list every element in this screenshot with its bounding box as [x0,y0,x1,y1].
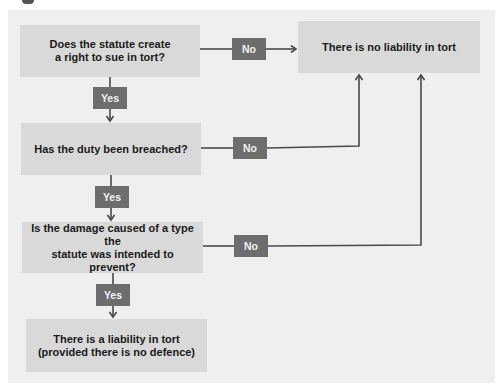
box-text-line: Is the damage caused of a type the [28,222,197,248]
yes-label-1: Yes [93,87,127,109]
box-text-line: Has the duty been breached? [34,143,187,156]
box-text-line: There is a liability in tort [38,333,195,346]
no-connector-2 [201,75,359,148]
box-text-line: Does the statute create [49,38,170,51]
no-connector-3 [203,75,421,246]
decision-box-duty-breached: Has the duty been breached? [21,123,201,175]
decision-box-statute-right-to-sue: Does the statute create a right to sue i… [20,25,200,77]
box-text-line: There is no liability in tort [322,41,456,54]
outcome-box-liability: There is a liability in tort (provided t… [26,319,207,372]
no-label-1: No [232,38,266,60]
box-text-line: (provided there is no defence) [38,346,195,359]
no-label-2: No [233,137,267,159]
box-text-line: a right to sue in tort? [49,51,170,64]
yes-label-2: Yes [95,186,129,208]
yes-label-3: Yes [96,284,130,306]
no-label-3: No [234,235,268,257]
decision-box-damage-type: Is the damage caused of a type the statu… [22,222,203,273]
outcome-box-no-liability: There is no liability in tort [298,21,480,73]
box-text-line: statute was intended to prevent? [28,248,197,274]
